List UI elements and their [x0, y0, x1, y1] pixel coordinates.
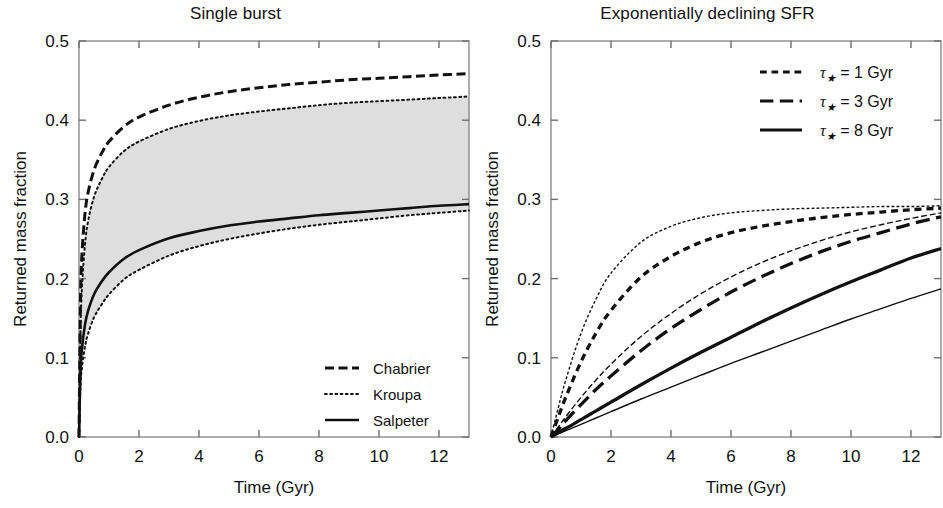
x-axis-title: Time (Gyr) — [234, 478, 315, 497]
legend-label-kroupa: Kroupa — [373, 386, 422, 403]
x-tick-label: 6 — [726, 447, 735, 466]
panel-single-burst: Single burst 0246810120.00.10.20.30.40.5… — [0, 0, 471, 508]
x-tick-label: 12 — [902, 447, 921, 466]
x-tick-label: 2 — [134, 447, 143, 466]
legend: ChabrierKroupaSalpeter — [325, 360, 431, 429]
x-tick-label: 10 — [842, 447, 861, 466]
curve-tau-8-gyr-thin — [551, 289, 941, 437]
x-tick-label: 8 — [786, 447, 795, 466]
x-axis-title: Time (Gyr) — [706, 478, 787, 497]
plot-area-exponentially-declining-sfr: 0246810120.00.10.20.30.40.5Time (Gyr)Ret… — [472, 0, 943, 508]
panel-exponentially-declining-sfr: Exponentially declining SFR 0246810120.0… — [472, 0, 943, 508]
plot-area-single-burst: 0246810120.00.10.20.30.40.5Time (Gyr)Ret… — [0, 0, 471, 508]
x-tick-label: 4 — [666, 447, 675, 466]
x-tick-label: 10 — [370, 447, 389, 466]
legend-label-salpeter: Salpeter — [373, 412, 429, 429]
curve-tau-8-gyr-thick — [551, 249, 941, 438]
y-tick-label: 0.3 — [45, 190, 69, 209]
y-tick-label: 0.0 — [517, 428, 541, 447]
y-axis-title: Returned mass fraction — [483, 151, 502, 327]
figure-root: Single burst 0246810120.00.10.20.30.40.5… — [0, 0, 943, 508]
y-tick-label: 0.4 — [45, 111, 69, 130]
y-axis-title: Returned mass fraction — [11, 151, 30, 327]
y-tick-label: 0.3 — [517, 190, 541, 209]
x-tick-label: 2 — [606, 447, 615, 466]
y-tick-label: 0.1 — [45, 349, 69, 368]
x-tick-label: 4 — [194, 447, 203, 466]
legend-label-1: τ★ = 3 Gyr — [820, 93, 894, 113]
y-tick-label: 0.2 — [45, 270, 69, 289]
x-tick-label: 0 — [74, 447, 83, 466]
legend-label-chabrier: Chabrier — [373, 360, 431, 377]
y-tick-label: 0.4 — [517, 111, 541, 130]
y-tick-label: 0.5 — [45, 32, 69, 51]
legend-label-0: τ★ = 1 Gyr — [820, 64, 894, 84]
legend-label-2: τ★ = 8 Gyr — [820, 122, 894, 142]
y-tick-label: 0.2 — [517, 270, 541, 289]
x-tick-label: 12 — [430, 447, 449, 466]
x-tick-label: 8 — [314, 447, 323, 466]
x-tick-label: 6 — [254, 447, 263, 466]
y-tick-label: 0.5 — [517, 32, 541, 51]
x-tick-label: 0 — [546, 447, 555, 466]
y-tick-label: 0.1 — [517, 349, 541, 368]
y-tick-label: 0.0 — [45, 428, 69, 447]
legend: τ★ = 1 Gyrτ★ = 3 Gyrτ★ = 8 Gyr — [760, 64, 894, 142]
